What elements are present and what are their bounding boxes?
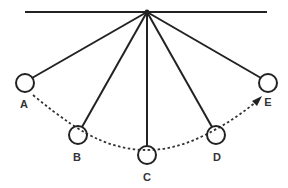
bob-d <box>207 126 225 144</box>
string-b <box>82 12 147 127</box>
bob-e <box>259 74 277 92</box>
label-e: E <box>264 96 271 108</box>
bob-labels: A B C D E <box>20 96 272 183</box>
string-a <box>32 12 147 78</box>
pendulum-strings <box>32 12 261 146</box>
string-e <box>147 12 261 78</box>
bob-c <box>138 146 156 164</box>
label-d: D <box>213 151 221 163</box>
string-d <box>147 12 212 127</box>
label-a: A <box>20 98 28 110</box>
label-c: C <box>143 171 151 183</box>
pivot-point <box>145 10 150 15</box>
label-b: B <box>73 151 81 163</box>
bob-a <box>16 74 34 92</box>
pendulum-diagram: A B C D E <box>0 0 288 188</box>
